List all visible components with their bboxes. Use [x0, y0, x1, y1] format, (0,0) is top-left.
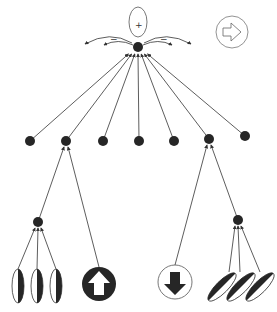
edge-middle-to-top: [148, 54, 245, 136]
vertical-ellipse-icon: [50, 269, 62, 303]
output-arrow-right: [143, 42, 172, 46]
edge-middle-to-top: [144, 54, 209, 139]
edge-left-hub-to-middle: [38, 147, 64, 222]
middle-node: [240, 131, 250, 141]
middle-node: [204, 134, 214, 144]
right-input-group: [204, 269, 277, 304]
edge-right-input-to-hub: [238, 226, 240, 272]
edge-middle-to-top: [138, 54, 139, 141]
arrow-right-icon: [216, 16, 248, 48]
nodes: [25, 42, 250, 227]
edge-down-arrow-to-middle: [175, 145, 207, 265]
middle-node: [61, 136, 71, 146]
middle-node: [169, 136, 179, 146]
arrow-down-icon: [158, 265, 192, 299]
edge-up-arrow-to-middle: [68, 147, 99, 267]
minus-sign-right: −: [160, 34, 168, 44]
vertical-ellipse-icon: [12, 269, 24, 303]
edges: [18, 54, 260, 272]
edge-middle-to-top: [141, 54, 174, 141]
output-arrow-left: [104, 42, 133, 46]
hierarchy-diagram: + − −: [0, 0, 277, 312]
left-input-group: [12, 269, 62, 303]
left-hub-node: [33, 217, 43, 227]
middle-node: [25, 136, 35, 146]
edge-right-input-to-hub: [241, 226, 260, 272]
edge-left-input-to-hub: [37, 228, 38, 269]
edge-middle-to-top: [30, 54, 128, 141]
edge-middle-to-top: [103, 54, 135, 141]
edge-right-input-to-hub: [229, 226, 235, 272]
minus-sign-left: −: [110, 34, 118, 44]
plus-sign: +: [135, 20, 143, 30]
middle-node: [134, 136, 144, 146]
edge-right-hub-to-middle: [211, 145, 238, 220]
top-node: [133, 42, 143, 52]
arrow-up-icon: [82, 267, 116, 301]
middle-node: [98, 136, 108, 146]
edge-left-input-to-hub: [41, 228, 56, 269]
vertical-ellipse-icon: [31, 269, 43, 303]
edge-left-input-to-hub: [18, 228, 35, 269]
edge-middle-to-top: [66, 54, 132, 141]
right-hub-node: [233, 215, 243, 225]
